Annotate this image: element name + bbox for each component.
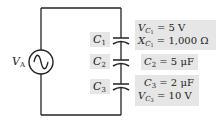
c3-info: C3 = 2 μF VC3 = 10 V [138,77,194,101]
c1-label: C1 [93,34,106,49]
c1-info: VC1 = 5 V XC1 = 1,000 Ω [138,22,209,46]
ac-source-icon [29,50,53,74]
c3-label: C3 [93,81,106,96]
c2-capacitance: C2 = 5 μF [144,56,194,67]
c2-label: C2 [93,56,106,71]
c3-voltage: VC3 = 10 V [138,90,194,101]
source-label: VA [12,56,25,71]
c3-capacitance: C3 = 2 μF [138,77,194,88]
c1-voltage: VC1 = 5 V [138,22,209,33]
c1-reactance: XC1 = 1,000 Ω [138,35,209,46]
c2-info: C2 = 5 μF [144,56,194,67]
